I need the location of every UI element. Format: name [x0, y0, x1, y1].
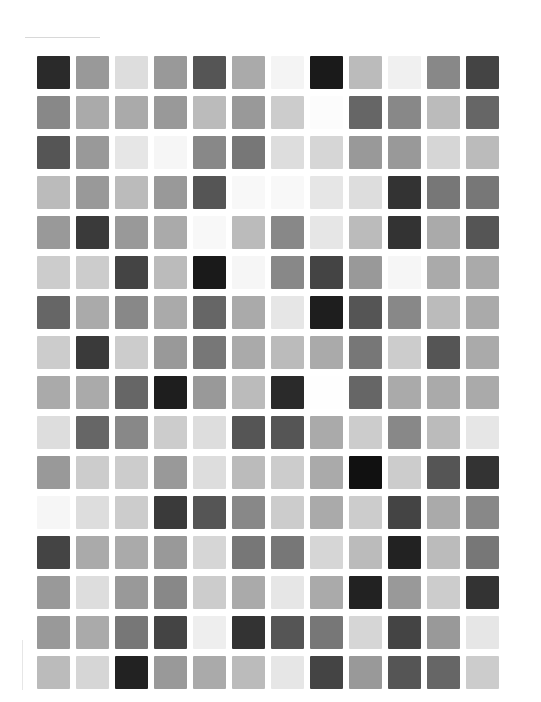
gray-swatch-r1-c4: [154, 56, 187, 89]
gray-swatch-r1-c7: [271, 56, 304, 89]
gray-swatch-r6-c3: [115, 256, 148, 289]
gray-swatch-r9-c8: [310, 376, 343, 409]
gray-swatch-r16-c12: [466, 656, 499, 689]
gray-swatch-r1-c1: [37, 56, 70, 89]
gray-swatch-r9-c5: [193, 376, 226, 409]
gray-swatch-r3-c12: [466, 136, 499, 169]
gray-swatch-r3-c9: [349, 136, 382, 169]
gray-swatch-r6-c8: [310, 256, 343, 289]
gray-swatch-r3-c2: [76, 136, 109, 169]
gray-swatch-r12-c2: [76, 496, 109, 529]
gray-swatch-r3-c1: [37, 136, 70, 169]
gray-swatch-r2-c4: [154, 96, 187, 129]
gray-swatch-r12-c7: [271, 496, 304, 529]
gray-swatch-r7-c12: [466, 296, 499, 329]
gray-swatch-r14-c7: [271, 576, 304, 609]
gray-swatch-r1-c3: [115, 56, 148, 89]
gray-swatch-r8-c5: [193, 336, 226, 369]
gray-swatch-r9-c7: [271, 376, 304, 409]
gray-swatch-r9-c11: [427, 376, 460, 409]
gray-swatch-r1-c2: [76, 56, 109, 89]
gray-swatch-r7-c8: [310, 296, 343, 329]
gray-swatch-r15-c6: [232, 616, 265, 649]
gray-swatch-r10-c5: [193, 416, 226, 449]
gray-swatch-r2-c8: [310, 96, 343, 129]
gray-swatch-r7-c1: [37, 296, 70, 329]
gray-swatch-r8-c2: [76, 336, 109, 369]
gray-swatch-r13-c5: [193, 536, 226, 569]
gray-swatch-r9-c3: [115, 376, 148, 409]
gray-swatch-r10-c4: [154, 416, 187, 449]
gray-swatch-r15-c7: [271, 616, 304, 649]
gray-swatch-r13-c3: [115, 536, 148, 569]
gray-swatch-r5-c4: [154, 216, 187, 249]
gray-swatch-r8-c12: [466, 336, 499, 369]
gray-swatch-r10-c6: [232, 416, 265, 449]
gray-swatch-r2-c3: [115, 96, 148, 129]
gray-swatch-r15-c12: [466, 616, 499, 649]
gray-swatch-r4-c3: [115, 176, 148, 209]
gray-swatch-r4-c12: [466, 176, 499, 209]
gray-swatch-r5-c9: [349, 216, 382, 249]
gray-swatch-r15-c1: [37, 616, 70, 649]
gray-swatch-r8-c4: [154, 336, 187, 369]
gray-swatch-r3-c7: [271, 136, 304, 169]
gray-swatch-r7-c11: [427, 296, 460, 329]
top-rule-line: [25, 37, 100, 38]
gray-swatch-r1-c10: [388, 56, 421, 89]
gray-swatch-r5-c3: [115, 216, 148, 249]
gray-swatch-r11-c5: [193, 456, 226, 489]
gray-swatch-r16-c2: [76, 656, 109, 689]
gray-swatch-r6-c10: [388, 256, 421, 289]
gray-swatch-r6-c2: [76, 256, 109, 289]
gray-swatch-r1-c12: [466, 56, 499, 89]
gray-swatch-r9-c4: [154, 376, 187, 409]
gray-swatch-r16-c9: [349, 656, 382, 689]
gray-swatch-r6-c7: [271, 256, 304, 289]
gray-swatch-r13-c6: [232, 536, 265, 569]
gray-swatch-r15-c3: [115, 616, 148, 649]
left-edge-line: [22, 640, 23, 690]
gray-swatch-r9-c10: [388, 376, 421, 409]
gray-swatch-r3-c5: [193, 136, 226, 169]
gray-swatch-r10-c2: [76, 416, 109, 449]
gray-swatch-r13-c7: [271, 536, 304, 569]
gray-swatch-r5-c8: [310, 216, 343, 249]
gray-swatch-r8-c6: [232, 336, 265, 369]
gray-swatch-r11-c2: [76, 456, 109, 489]
gray-swatch-r12-c4: [154, 496, 187, 529]
gray-swatch-r10-c10: [388, 416, 421, 449]
gray-swatch-r15-c9: [349, 616, 382, 649]
gray-swatch-r15-c11: [427, 616, 460, 649]
gray-swatch-r9-c2: [76, 376, 109, 409]
gray-swatch-r15-c4: [154, 616, 187, 649]
gray-swatch-r7-c10: [388, 296, 421, 329]
gray-swatch-r2-c1: [37, 96, 70, 129]
gray-swatch-r12-c11: [427, 496, 460, 529]
gray-swatch-r7-c9: [349, 296, 382, 329]
gray-swatch-r11-c12: [466, 456, 499, 489]
gray-swatch-r3-c11: [427, 136, 460, 169]
gray-swatch-r5-c2: [76, 216, 109, 249]
gray-swatch-r12-c1: [37, 496, 70, 529]
gray-swatch-r3-c4: [154, 136, 187, 169]
gray-swatch-r14-c9: [349, 576, 382, 609]
gray-swatch-r14-c11: [427, 576, 460, 609]
gray-swatch-r4-c11: [427, 176, 460, 209]
gray-swatch-r9-c1: [37, 376, 70, 409]
gray-swatch-r3-c3: [115, 136, 148, 169]
gray-swatch-r8-c10: [388, 336, 421, 369]
gray-swatch-r4-c6: [232, 176, 265, 209]
gray-swatch-r12-c10: [388, 496, 421, 529]
gray-swatch-r15-c10: [388, 616, 421, 649]
gray-swatch-r16-c11: [427, 656, 460, 689]
gray-swatch-r6-c6: [232, 256, 265, 289]
gray-swatch-r16-c3: [115, 656, 148, 689]
gray-swatch-r6-c4: [154, 256, 187, 289]
gray-swatch-r7-c4: [154, 296, 187, 329]
gray-swatch-r8-c3: [115, 336, 148, 369]
gray-swatch-r11-c6: [232, 456, 265, 489]
gray-swatch-r14-c12: [466, 576, 499, 609]
gray-swatch-r9-c12: [466, 376, 499, 409]
gray-swatch-r16-c1: [37, 656, 70, 689]
